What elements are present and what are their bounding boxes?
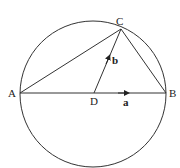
label-vector-b: b <box>112 54 118 66</box>
segment-AC <box>20 29 121 93</box>
label-vector-a: a <box>123 96 129 108</box>
label-C: C <box>116 15 123 27</box>
segment-BC <box>121 29 166 93</box>
label-B: B <box>169 87 176 99</box>
label-A: A <box>8 87 16 99</box>
geometry-diagram: A B C D a b <box>0 0 180 168</box>
label-D: D <box>90 95 98 107</box>
circumcircle <box>20 21 166 167</box>
vector-b-arrow <box>106 57 109 64</box>
